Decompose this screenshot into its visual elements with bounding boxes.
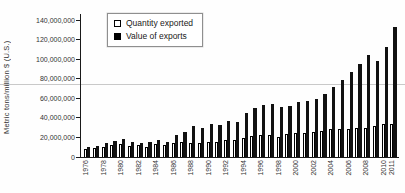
ytick-mark-120 <box>76 39 80 40</box>
bar-value-1979 <box>113 141 116 157</box>
bar-value-2002 <box>315 99 318 157</box>
bar-value-1977 <box>96 146 99 157</box>
bar-group-1987 <box>180 132 187 157</box>
ytick-label-20: 20,000,000 <box>4 134 75 141</box>
bar-value-1986 <box>175 135 178 157</box>
xtick-label-1996: 1996 <box>257 160 264 176</box>
bar-group-1983 <box>145 142 152 157</box>
bar-group-1988: 1988 <box>189 126 196 157</box>
ytick-label-80: 80,000,000 <box>4 75 75 82</box>
bar-group-1999 <box>285 106 292 157</box>
legend-item-quantity: Quantity exported <box>114 18 193 28</box>
xtick-label-2006: 2006 <box>345 160 352 176</box>
bar-group-1981 <box>128 142 135 157</box>
bar-value-1990 <box>210 124 213 157</box>
bar-group-2007 <box>355 64 362 157</box>
bar-group-2005 <box>338 80 345 157</box>
bar-group-1989 <box>198 128 205 157</box>
bar-value-1980 <box>122 139 125 157</box>
ytick-mark-0 <box>76 157 80 158</box>
bar-value-1981 <box>131 142 134 157</box>
ytick-mark-80 <box>76 78 80 79</box>
bar-group-1977 <box>93 146 100 157</box>
bar-group-1996: 1996 <box>259 105 266 157</box>
legend-label-value: Value of exports <box>126 31 187 41</box>
ytick-mark-20 <box>76 137 80 138</box>
export-bar-chart-figure: Metric tons/million $ (U.S.) 020,000,000… <box>0 0 405 193</box>
xtick-label-2010: 2010 <box>380 160 387 176</box>
bar-value-1983 <box>148 142 151 157</box>
xtick-label-1998: 1998 <box>275 160 282 176</box>
bar-value-2005 <box>341 80 344 157</box>
bar-group-1976: 1976 <box>84 147 91 157</box>
bar-group-1990: 1990 <box>207 124 214 157</box>
bar-group-2011: 2011 <box>390 27 397 157</box>
bar-value-1994 <box>245 113 248 157</box>
bar-group-1986: 1986 <box>172 135 179 157</box>
bar-value-1996 <box>262 105 265 157</box>
xtick-label-2000: 2000 <box>292 160 299 176</box>
bar-group-1978: 1978 <box>102 143 109 157</box>
bar-group-2003 <box>320 94 327 157</box>
bar-value-2003 <box>323 94 326 157</box>
xtick-label-1978: 1978 <box>100 160 107 176</box>
legend-item-value: Value of exports <box>114 31 193 41</box>
ytick-mark-140 <box>76 20 80 21</box>
legend: Quantity exported Value of exports <box>107 13 203 47</box>
bar-group-2001 <box>303 101 310 157</box>
bar-group-2002: 2002 <box>312 99 319 157</box>
xtick-label-1990: 1990 <box>205 160 212 176</box>
ytick-label-100: 100,000,000 <box>4 56 75 63</box>
bar-value-2009 <box>376 61 379 157</box>
bar-group-1997 <box>268 104 275 157</box>
bar-group-1998: 1998 <box>277 107 284 157</box>
bar-group-2000: 2000 <box>294 102 301 157</box>
bar-value-1989 <box>201 128 204 157</box>
bar-value-2004 <box>332 87 335 157</box>
bar-value-2001 <box>306 101 309 157</box>
xtick-label-1986: 1986 <box>170 160 177 176</box>
xtick-label-1982: 1982 <box>135 160 142 176</box>
bar-value-1987 <box>183 132 186 157</box>
bar-value-2008 <box>367 55 370 157</box>
bar-value-1993 <box>236 122 239 157</box>
bar-group-1993 <box>233 122 240 157</box>
bar-group-2010: 2010 <box>382 47 389 157</box>
bar-value-1998 <box>280 107 283 157</box>
bar-value-1976 <box>87 147 90 157</box>
bar-group-2006: 2006 <box>347 72 354 157</box>
xtick-label-2004: 2004 <box>327 160 334 176</box>
xtick-label-1976: 1976 <box>82 160 89 176</box>
xtick-label-1992: 1992 <box>222 160 229 176</box>
ytick-label-140: 140,000,000 <box>4 17 75 24</box>
xtick-label-2008: 2008 <box>362 160 369 176</box>
bar-value-1982 <box>140 143 143 157</box>
xtick-label-2002: 2002 <box>310 160 317 176</box>
xtick-label-1994: 1994 <box>240 160 247 176</box>
bar-value-1978 <box>105 143 108 157</box>
open-square-swatch-icon <box>114 20 121 27</box>
filled-square-swatch-icon <box>114 33 121 40</box>
bar-value-1992 <box>227 121 230 157</box>
bar-group-1980: 1980 <box>119 139 126 157</box>
bar-value-2006 <box>350 72 353 157</box>
bar-group-1995 <box>250 108 257 157</box>
bar-group-1994: 1994 <box>242 113 249 157</box>
xtick-label-1980: 1980 <box>117 160 124 176</box>
ytick-mark-40 <box>76 117 80 118</box>
ytick-mark-60 <box>76 98 80 99</box>
bar-value-1997 <box>271 104 274 157</box>
bar-group-1979 <box>110 141 117 157</box>
bar-value-1991 <box>218 125 221 157</box>
ytick-label-0: 0 <box>4 154 75 161</box>
ytick-mark-100 <box>76 59 80 60</box>
xtick-label-1984: 1984 <box>152 160 159 176</box>
ytick-label-60: 60,000,000 <box>4 95 75 102</box>
xtick-label-2011: 2011 <box>388 160 395 175</box>
bar-group-1985 <box>163 142 170 157</box>
bar-value-1988 <box>192 126 195 157</box>
bar-value-1999 <box>288 106 291 157</box>
xtick-label-1988: 1988 <box>187 160 194 176</box>
bar-group-1992: 1992 <box>224 121 231 157</box>
bar-group-2004: 2004 <box>329 87 336 157</box>
